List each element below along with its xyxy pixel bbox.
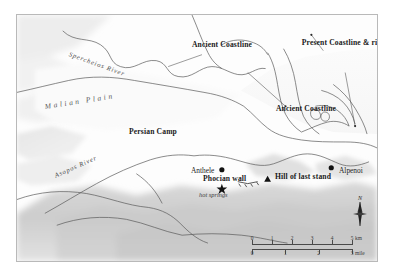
map-frame: Spercheios River Malian Plain Persian Ca…: [16, 14, 378, 262]
map-drawing-canvas: [17, 15, 377, 261]
scale-label-km-1: 1: [271, 235, 274, 241]
scale-label-km-3: 3: [311, 235, 314, 241]
scale-line-km: [252, 244, 352, 245]
scale-unit-mile: mile: [355, 250, 365, 256]
scale-label-mile-3: 3: [351, 250, 354, 256]
north-arrow-icon: [352, 196, 368, 230]
scale-line-mile: [252, 249, 352, 250]
scale-label-km-0: 0: [251, 235, 254, 241]
scale-label-mile-1: 1: [284, 250, 287, 256]
scale-label-mile-2: 2: [317, 250, 320, 256]
scale-label-km-5: 5: [351, 235, 354, 241]
scale-label-km-4: 4: [331, 235, 334, 241]
compass-north-label: N: [358, 195, 362, 201]
scale-unit-km: km: [355, 235, 362, 241]
alpenoi-marker: [329, 165, 334, 170]
anthele-marker: [219, 167, 224, 172]
scale-label-km-2: 2: [291, 235, 294, 241]
map-root: Spercheios River Malian Plain Persian Ca…: [0, 0, 394, 278]
compass-rose: N: [352, 196, 368, 230]
scale-label-mile-0: 0: [251, 250, 254, 256]
leader-dot-present-1: [310, 34, 312, 36]
leader-dot-ancient-east: [284, 105, 286, 107]
scale-bar: 0 1 2 3 4 5 km 0 1 2 3 mile: [252, 236, 368, 258]
leader-dot-present-2: [354, 125, 356, 127]
